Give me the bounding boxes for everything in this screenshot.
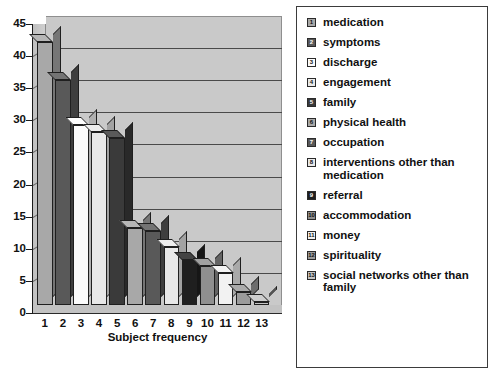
legend-swatch: 7	[307, 138, 316, 147]
bar-front-face	[37, 42, 53, 305]
y-axis-tick-mark	[26, 56, 33, 57]
bar	[218, 273, 234, 305]
legend-panel: 1medication2symptoms3discharge4engagemen…	[296, 6, 488, 368]
y-axis-tick-label: 10	[13, 243, 26, 255]
legend-item: 4engagement	[307, 76, 479, 89]
legend-swatch: 8	[307, 158, 316, 167]
bar	[37, 42, 53, 305]
legend-item-label: spirituality	[323, 249, 381, 262]
y-axis-tick-mark	[26, 88, 33, 89]
y-axis-tick-mark	[26, 249, 33, 250]
bar	[127, 228, 143, 305]
legend-item: 7occupation	[307, 136, 479, 149]
legend-item-label: symptoms	[323, 36, 381, 49]
legend-swatch-number: 8	[308, 159, 315, 167]
y-axis-tick-label: 40	[13, 50, 26, 62]
legend-swatch-number: 4	[308, 79, 315, 87]
bar	[182, 260, 198, 305]
bar-front-face	[200, 266, 216, 305]
legend-swatch-number: 7	[308, 139, 315, 147]
y-axis-tick-label: 30	[13, 115, 26, 127]
x-axis-tick-label: 2	[60, 316, 66, 330]
x-axis-tick-label: 12	[237, 316, 250, 330]
x-axis-tick-label: 1	[42, 316, 48, 330]
x-axis-tick-label: 4	[96, 316, 102, 330]
bar	[73, 125, 89, 305]
bar-front-face	[55, 80, 71, 305]
y-axis-tick-mark	[26, 313, 33, 314]
legend-item-label: social networks other than family	[323, 269, 479, 294]
legend-swatch-number: 10	[308, 212, 315, 220]
legend-item: 5family	[307, 96, 479, 109]
x-axis-tick-label: 6	[132, 316, 138, 330]
legend-item-label: referral	[323, 189, 363, 202]
chart-figure: 454035302520151050 12345678910111213 Sub…	[0, 0, 495, 375]
legend-swatch-number: 3	[308, 59, 315, 67]
legend-item-label: interventions other than medication	[323, 156, 479, 181]
y-axis-tick-label: 35	[13, 82, 26, 94]
legend-swatch: 11	[307, 231, 316, 240]
bar	[91, 132, 107, 305]
bar-front-face	[127, 228, 143, 305]
y-axis-tick-label: 25	[13, 147, 26, 159]
legend-swatch: 5	[307, 98, 316, 107]
legend-item: 8interventions other than medication	[307, 156, 479, 181]
legend-item-label: discharge	[323, 56, 377, 69]
legend-swatch: 6	[307, 118, 316, 127]
bar	[200, 266, 216, 305]
legend-item: 12spirituality	[307, 249, 479, 262]
x-axis-tick-labels: 12345678910111213	[33, 316, 282, 332]
legend-swatch: 12	[307, 251, 316, 260]
legend-swatch: 1	[307, 18, 316, 27]
legend-item: 1medication	[307, 16, 479, 29]
x-axis-tick-label: 5	[114, 316, 120, 330]
legend-swatch-number: 6	[308, 119, 315, 127]
x-axis-tick-label: 7	[150, 316, 156, 330]
y-axis-tick-mark	[26, 24, 33, 25]
x-axis-tick-label: 13	[255, 316, 268, 330]
y-axis-tick-label: 45	[13, 18, 26, 30]
bar	[164, 247, 180, 305]
legend-swatch-number: 11	[308, 232, 315, 240]
bar-top-face	[29, 34, 53, 42]
x-axis-title: Subject frequency	[33, 331, 282, 343]
legend-swatch: 9	[307, 191, 316, 200]
legend-swatch-number: 13	[308, 272, 315, 280]
bar-series	[33, 16, 282, 314]
legend-item: 13social networks other than family	[307, 269, 479, 294]
legend-swatch-number: 2	[308, 39, 315, 47]
legend-item: 6physical health	[307, 116, 479, 129]
legend-item: 10accommodation	[307, 209, 479, 222]
legend-item: 3discharge	[307, 56, 479, 69]
legend-swatch-number: 12	[308, 252, 315, 260]
bar-front-face	[254, 302, 270, 305]
x-axis-tick-label: 11	[219, 316, 231, 330]
y-axis-tick-mark	[26, 217, 33, 218]
legend-swatch: 13	[307, 271, 316, 280]
y-axis-tick-labels: 454035302520151050	[0, 0, 26, 375]
y-axis-tick-label: 20	[13, 179, 26, 191]
y-axis-tick-mark	[26, 152, 33, 153]
bar-front-face	[164, 247, 180, 305]
legend-item: 11money	[307, 229, 479, 242]
x-axis-tick-label: 9	[186, 316, 192, 330]
bar-front-face	[218, 273, 234, 305]
legend-item-label: accommodation	[323, 209, 411, 222]
legend-item-label: physical health	[323, 116, 406, 129]
x-axis-tick-label: 8	[168, 316, 174, 330]
bar-front-face	[182, 260, 198, 305]
x-axis-tick-label: 3	[78, 316, 84, 330]
y-axis-tick-mark	[26, 185, 33, 186]
bar-chart-panel: 454035302520151050 12345678910111213 Sub…	[0, 0, 290, 375]
bar-front-face	[91, 132, 107, 305]
bar-side-face	[269, 286, 277, 297]
bar	[55, 80, 71, 305]
y-axis-tick-mark	[26, 281, 33, 282]
legend-item: 2symptoms	[307, 36, 479, 49]
legend-swatch-number: 9	[308, 192, 315, 200]
legend-swatch-number: 1	[308, 19, 315, 27]
legend-swatch: 3	[307, 58, 316, 67]
bar	[254, 302, 270, 305]
y-axis-tick-mark	[26, 120, 33, 121]
legend-item-label: money	[323, 229, 360, 242]
